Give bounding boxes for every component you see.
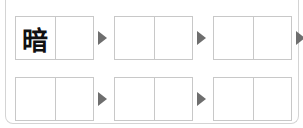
- char-cell[interactable]: [115, 78, 154, 120]
- chain-row-2: [15, 77, 292, 121]
- word-box-2: [114, 16, 193, 60]
- word-box-1: 暗: [15, 16, 94, 60]
- char-cell[interactable]: [214, 17, 253, 59]
- arrow-right-icon: [197, 31, 206, 45]
- char-cell[interactable]: [154, 17, 193, 59]
- char-cell[interactable]: 暗: [16, 17, 55, 59]
- word-box-5: [114, 77, 193, 121]
- char-cell[interactable]: [115, 17, 154, 59]
- arrow-right-icon: [197, 92, 206, 106]
- word-box-6: [213, 77, 292, 121]
- arrow-right-icon: [98, 31, 107, 45]
- char-cell[interactable]: [253, 78, 292, 120]
- char-cell[interactable]: [214, 78, 253, 120]
- word-box-3: [213, 16, 292, 60]
- char-cell[interactable]: [55, 17, 94, 59]
- char-cell[interactable]: [154, 78, 193, 120]
- char-cell[interactable]: [55, 78, 94, 120]
- chain-row-1: 暗: [15, 16, 303, 60]
- char-cell[interactable]: [16, 78, 55, 120]
- char-cell[interactable]: [253, 17, 292, 59]
- arrow-right-icon: [98, 92, 107, 106]
- word-box-4: [15, 77, 94, 121]
- arrow-right-icon: [296, 31, 303, 45]
